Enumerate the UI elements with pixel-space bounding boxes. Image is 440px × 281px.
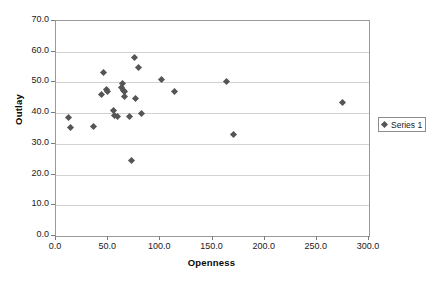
- x-tick-label: 300.0: [346, 241, 390, 251]
- data-point: [100, 69, 107, 76]
- y-tick-label: 40.0: [9, 107, 49, 116]
- gridline-y: [56, 144, 369, 145]
- x-tick-label-wrap: 0.0: [33, 241, 77, 251]
- x-tick-label: 150.0: [190, 241, 234, 251]
- x-tick-mark: [368, 236, 369, 240]
- x-tick-label-wrap: 100.0: [137, 241, 181, 251]
- data-point: [119, 79, 126, 86]
- gridline-y: [56, 205, 369, 206]
- legend: Series 1: [378, 117, 426, 132]
- data-point: [65, 114, 72, 121]
- x-tick-label: 250.0: [294, 241, 338, 251]
- plot-inner: [56, 21, 369, 236]
- x-tick-label: 0.0: [33, 241, 77, 251]
- x-tick-mark: [55, 236, 56, 240]
- x-tick-label-wrap: 250.0: [294, 241, 338, 251]
- y-tick-label-wrap: 50.0: [5, 76, 49, 85]
- data-point: [135, 64, 142, 71]
- y-tick-label-wrap: 60.0: [5, 46, 49, 55]
- y-tick-label-wrap: 70.0: [5, 15, 49, 24]
- data-point: [339, 99, 346, 106]
- data-point: [90, 122, 97, 129]
- x-tick-label: 50.0: [85, 241, 129, 251]
- data-point: [230, 131, 237, 138]
- gridline-y: [56, 113, 369, 114]
- gridline-y: [56, 82, 369, 83]
- x-tick-label-wrap: 300.0: [346, 241, 390, 251]
- x-tick-label-wrap: 150.0: [190, 241, 234, 251]
- data-point: [128, 157, 135, 164]
- y-tick-label-wrap: 30.0: [5, 138, 49, 147]
- x-axis-title: Openness: [55, 257, 368, 268]
- y-tick-label: 0.0: [9, 230, 49, 239]
- y-tick-mark: [51, 81, 55, 82]
- y-tick-mark: [51, 51, 55, 52]
- data-point: [131, 54, 138, 61]
- y-tick-mark: [51, 20, 55, 21]
- y-tick-mark: [51, 204, 55, 205]
- y-tick-label-wrap: 0.0: [5, 230, 49, 239]
- y-tick-label-wrap: 40.0: [5, 107, 49, 116]
- gridline-y: [56, 175, 369, 176]
- y-tick-mark: [51, 174, 55, 175]
- x-tick-mark: [316, 236, 317, 240]
- y-tick-label: 20.0: [9, 169, 49, 178]
- data-point: [67, 124, 74, 131]
- data-point: [132, 95, 139, 102]
- y-tick-label: 50.0: [9, 76, 49, 85]
- x-tick-label: 100.0: [137, 241, 181, 251]
- legend-label-series-1: Series 1: [391, 120, 422, 130]
- y-tick-label: 10.0: [9, 199, 49, 208]
- x-tick-label: 200.0: [242, 241, 286, 251]
- data-point: [171, 88, 178, 95]
- legend-marker-icon: [381, 121, 388, 128]
- y-tick-label: 30.0: [9, 138, 49, 147]
- x-tick-mark: [212, 236, 213, 240]
- plot-area: [55, 20, 370, 237]
- x-tick-label-wrap: 200.0: [242, 241, 286, 251]
- x-tick-label-wrap: 50.0: [85, 241, 129, 251]
- data-point: [137, 110, 144, 117]
- y-tick-label: 60.0: [9, 46, 49, 55]
- y-tick-mark: [51, 143, 55, 144]
- y-tick-label-wrap: 10.0: [5, 199, 49, 208]
- data-point: [223, 78, 230, 85]
- x-tick-mark: [264, 236, 265, 240]
- y-tick-mark: [51, 112, 55, 113]
- gridline-y: [56, 52, 369, 53]
- x-tick-mark: [107, 236, 108, 240]
- y-tick-label-wrap: 20.0: [5, 169, 49, 178]
- data-point: [121, 93, 128, 100]
- y-tick-label: 70.0: [9, 15, 49, 24]
- x-tick-mark: [159, 236, 160, 240]
- scatter-chart: Outlay 0.010.020.030.040.050.060.070.0 0…: [0, 0, 440, 281]
